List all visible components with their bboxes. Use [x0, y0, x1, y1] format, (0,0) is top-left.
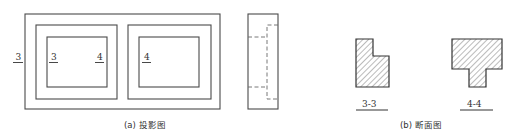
- cut-label-text: 3: [16, 52, 22, 62]
- side-view-outline: [248, 14, 278, 109]
- cut-label-text: 4: [144, 52, 150, 62]
- left-cell-inner: [47, 37, 107, 87]
- side-view: [248, 14, 278, 109]
- front-view: 3 3 4 4: [13, 14, 220, 109]
- cut-label-4-right-cell: 4: [142, 52, 151, 63]
- sections-caption: (b) 断面图: [400, 120, 442, 130]
- left-cell-outer: [36, 25, 117, 99]
- hidden-line-step: [267, 25, 278, 99]
- section-4-4-shape: [452, 39, 502, 87]
- section-3-3-shape: [356, 39, 389, 87]
- right-cell-inner: [139, 37, 199, 87]
- cut-label-4-left-cell: 4: [95, 52, 104, 63]
- section-3-3: 3-3: [356, 39, 389, 110]
- section-4-4-label: 4-4: [467, 99, 482, 109]
- projection-caption: (a) 投影图: [124, 120, 166, 130]
- cut-label-text: 4: [97, 52, 103, 62]
- section-3-3-label: 3-3: [362, 99, 377, 109]
- cut-label-3-inner: 3: [49, 52, 58, 63]
- section-4-4: 4-4: [452, 39, 502, 110]
- technical-drawing: 3 3 4 4 (a) 投影图 3-3 4-4 (b) 断面图: [0, 0, 515, 139]
- cut-label-text: 3: [51, 52, 57, 62]
- cut-label-3-left: 3: [13, 52, 23, 63]
